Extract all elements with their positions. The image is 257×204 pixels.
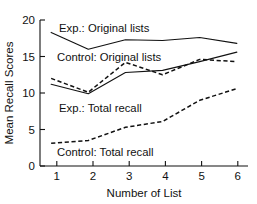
y-tick-label-10: 10 (22, 87, 35, 99)
y-tick-label-15: 15 (22, 51, 35, 63)
series-exp-original-lists (51, 32, 237, 49)
x-tick-label-1: 1 (54, 170, 60, 182)
y-tick-label-20: 20 (22, 14, 35, 26)
line-chart: 0 5 10 15 20 1 2 3 4 5 6 Number of List … (0, 0, 257, 204)
y-axis-title: Mean Recall Scores (3, 41, 15, 144)
x-tick-label-3: 3 (126, 170, 132, 182)
x-tick-label-6: 6 (235, 170, 241, 182)
x-tick-label-2: 2 (90, 170, 96, 182)
y-axis-ticks: 0 5 10 15 20 (22, 14, 45, 172)
label-exp-total-recall: Exp.: Total recall (59, 102, 142, 114)
label-control-original-lists: Control: Original lists (57, 51, 162, 63)
y-tick-label-0: 0 (29, 160, 35, 172)
x-tick-label-5: 5 (198, 170, 204, 182)
label-control-total-recall: Control: Total recall (57, 146, 154, 158)
x-tick-label-4: 4 (162, 170, 169, 182)
label-exp-original-lists: Exp.: Original lists (59, 22, 150, 34)
series-control-total-recall (51, 89, 237, 144)
y-tick-label-5: 5 (29, 124, 35, 136)
series-group (51, 32, 237, 143)
series-exp-total-recall (51, 59, 237, 92)
x-axis-title: Number of List (107, 187, 183, 199)
x-axis-ticks: 1 2 3 4 5 6 (54, 161, 241, 182)
chart-figure: 0 5 10 15 20 1 2 3 4 5 6 Number of List … (0, 0, 257, 204)
